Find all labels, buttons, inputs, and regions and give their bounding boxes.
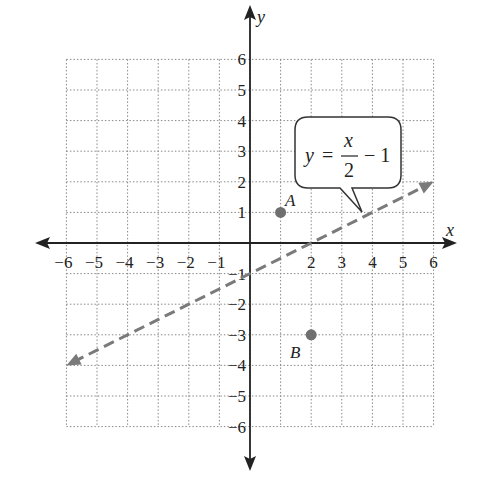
y-tick-label: 3 [238, 142, 247, 161]
x-tick-label: −3 [146, 253, 164, 272]
y-axis-label: y [255, 7, 265, 27]
x-tick-label: −4 [116, 253, 135, 272]
equation-numerator: x [343, 129, 353, 151]
y-tick-label: −3 [228, 326, 246, 345]
x-axis-label: x [445, 220, 454, 240]
equation-callout: y = x 2 − 1 [295, 117, 401, 212]
line-right-arrow-icon [418, 182, 433, 194]
x-tick-label: −1 [207, 253, 225, 272]
y-tick-label: 4 [238, 112, 247, 131]
x-tick-label: 4 [368, 253, 377, 272]
point-b [306, 329, 317, 340]
x-tick-label: 5 [399, 253, 408, 272]
x-tick-labels: −6−5−4−3−2−123456 [54, 253, 438, 272]
y-tick-label: 5 [238, 81, 247, 100]
y-tick-label: −5 [228, 387, 246, 406]
point-b-label: B [290, 343, 301, 362]
equation-denominator: 2 [344, 159, 354, 181]
y-tick-label: −1 [228, 265, 246, 284]
y-tick-label: 6 [238, 50, 247, 69]
equation-y: y [303, 144, 314, 167]
y-tick-label: 1 [238, 203, 247, 222]
x-tick-label: 3 [338, 253, 347, 272]
coordinate-plane: x y −6−5−4−3−2−123456 654321−1−2−3−4−5−6… [0, 0, 485, 481]
x-tick-label: 2 [307, 253, 316, 272]
y-tick-label: −6 [228, 418, 246, 437]
x-tick-label: −6 [54, 253, 72, 272]
x-tick-label: −2 [177, 253, 195, 272]
equation-tail: − 1 [364, 144, 390, 166]
x-tick-label: 6 [429, 253, 438, 272]
equation-equals: = [322, 144, 333, 166]
point-a-label: A [284, 191, 296, 210]
y-tick-label: −4 [228, 356, 247, 375]
x-tick-label: −5 [85, 253, 103, 272]
y-tick-label: 2 [238, 173, 247, 192]
axes [35, 5, 457, 471]
y-tick-label: −2 [228, 295, 246, 314]
